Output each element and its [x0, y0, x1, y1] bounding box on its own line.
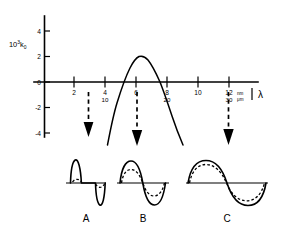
- arrow-a-head-icon: [84, 122, 94, 137]
- arrow-to-b: [132, 92, 142, 146]
- x-tick-label-10: 10: [194, 89, 202, 96]
- x-axis-lambda-symbol: λ: [258, 89, 263, 100]
- x-axis-units: nm μm: [237, 91, 244, 103]
- y-axis-title-subscript: 0: [24, 45, 27, 50]
- arrow-c-head-icon: [223, 129, 233, 145]
- inset-a-label: A: [83, 213, 90, 224]
- inset-c-label: C: [223, 213, 230, 224]
- x-axis-unit-um: μm: [237, 97, 244, 102]
- x-axis-lambda-group: λ: [252, 88, 263, 100]
- inset-b-label: B: [140, 213, 147, 224]
- dispersion-curve-path: [108, 56, 184, 145]
- y-tick-label-4: 4: [37, 28, 41, 35]
- x-tick-label-2: 2: [72, 89, 76, 96]
- y-tick-label-minus2: -2: [35, 104, 41, 111]
- x-tick-sublabel-10: 10: [102, 96, 109, 103]
- inset-c: C: [186, 161, 268, 225]
- figure-canvas: 4 2 0 -2 -4 103k0 2 4 6 8 10: [0, 0, 304, 233]
- inset-b: B: [117, 161, 169, 224]
- y-tick-label-0: 0: [37, 79, 41, 86]
- x-axis-unit-nm: nm: [237, 91, 244, 96]
- arrow-b-head-icon: [132, 130, 142, 146]
- dispersion-curve-group: [108, 56, 184, 145]
- inset-a-dashed-wave-upper: [73, 179, 82, 182]
- dispersion-figure: 4 2 0 -2 -4 103k0 2 4 6 8 10: [0, 0, 304, 233]
- arrow-to-a: [84, 92, 94, 137]
- y-axis-title-base: 10: [9, 40, 17, 49]
- axes-group: [34, 16, 258, 137]
- y-axis-ticks: [45, 31, 51, 133]
- x-axis-primary-labels: 2 4 6 8 10 12: [72, 89, 233, 96]
- y-tick-label-2: 2: [37, 53, 41, 60]
- y-tick-label-minus4: -4: [35, 130, 41, 137]
- inset-a-dashed-wave-lower: [96, 184, 105, 187]
- y-axis-title-text: 103k0: [9, 40, 27, 51]
- y-axis-title: 103k0: [9, 40, 27, 51]
- inset-a: A: [66, 160, 106, 224]
